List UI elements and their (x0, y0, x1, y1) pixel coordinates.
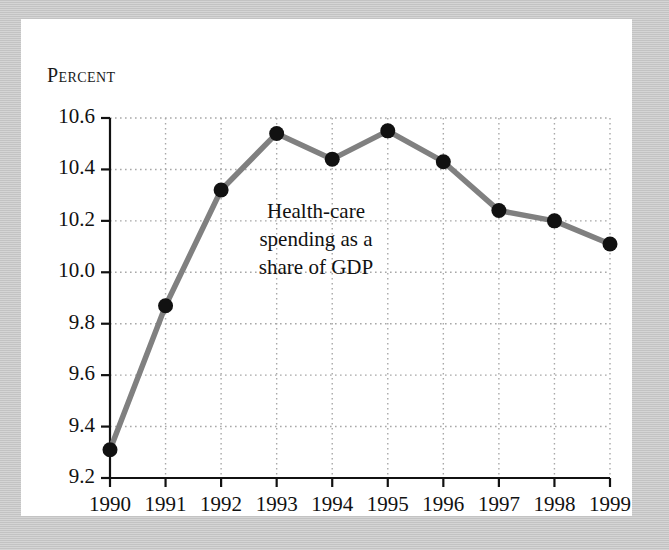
data-point-marker (603, 237, 618, 252)
x-axis-tick-marks (110, 478, 610, 487)
data-point-marker (436, 154, 451, 169)
horizontal-gridlines (110, 118, 610, 478)
data-point-marker (547, 213, 562, 228)
data-series-line (110, 131, 610, 450)
y-axis-tick-marks (101, 118, 110, 478)
chart-annotation: Health-care spending as a share of GDP (209, 198, 423, 282)
chart-page: Percent 10.610.410.210.09.89.69.49.2 199… (0, 0, 669, 550)
data-point-marker (491, 203, 506, 218)
data-point-marker (380, 123, 395, 138)
annotation-line-2: spending as a (209, 226, 423, 254)
y-axis-tick-label: 10.6 (58, 104, 95, 129)
data-point-marker (158, 298, 173, 313)
y-axis-tick-label: 9.8 (69, 310, 95, 335)
data-point-marker (325, 152, 340, 167)
x-axis-tick-label: 1999 (570, 492, 650, 517)
data-point-markers (103, 123, 618, 457)
y-axis-tick-label: 10.2 (58, 207, 95, 232)
chart-card: Percent 10.610.410.210.09.89.69.49.2 199… (21, 19, 632, 516)
data-point-marker (269, 126, 284, 141)
y-axis-tick-label: 9.2 (69, 464, 95, 489)
vertical-gridlines (166, 118, 610, 478)
y-axis-tick-label: 9.4 (69, 413, 95, 438)
data-point-marker (214, 183, 229, 198)
chart-plot-container: Percent 10.610.410.210.09.89.69.49.2 199… (21, 19, 632, 516)
data-point-marker (103, 442, 118, 457)
annotation-line-3: share of GDP (209, 254, 423, 282)
y-axis-tick-label: 10.4 (58, 155, 95, 180)
y-axis-tick-label: 9.6 (69, 361, 95, 386)
annotation-line-1: Health-care (209, 198, 423, 226)
y-axis-tick-label: 10.0 (58, 258, 95, 283)
